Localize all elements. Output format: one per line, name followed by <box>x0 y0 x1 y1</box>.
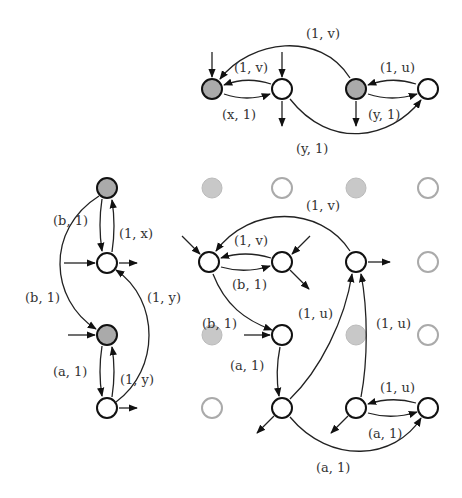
edge-label: (y, 1) <box>368 107 400 122</box>
edge-l4-l3 <box>112 347 114 397</box>
state-node <box>97 398 117 418</box>
edge-e-f <box>277 347 280 396</box>
faded-node <box>272 178 292 198</box>
edge-label: (a, 1) <box>230 358 264 373</box>
edge-t2-t1 <box>224 80 271 85</box>
edge-t1-t2 <box>224 94 270 98</box>
faded-node <box>418 178 438 198</box>
edge-label: (a, 1) <box>316 460 350 475</box>
state-node <box>199 252 219 272</box>
state-node <box>272 325 292 345</box>
edge-label: (b, 1) <box>53 213 88 228</box>
initial-arrow <box>182 236 200 254</box>
edge-l3-l4 <box>100 346 102 396</box>
edge-label: (1, u) <box>376 316 411 331</box>
edge-h-g <box>368 400 416 404</box>
edge-label: (1, u) <box>380 60 415 75</box>
faded-node <box>418 325 438 345</box>
edge-t3-t4 <box>368 94 417 98</box>
faded-node <box>418 252 438 272</box>
edge-label: (1, v) <box>234 60 268 75</box>
edge-label: (1, x) <box>119 226 153 241</box>
state-node <box>202 79 222 99</box>
edge-label: (1, v) <box>306 26 340 41</box>
edge-a-b <box>221 266 270 270</box>
state-node <box>272 252 292 272</box>
edge-label: (1, y) <box>120 372 154 387</box>
edge-label: (a, 1) <box>368 426 402 441</box>
edge-label: (a, 1) <box>53 364 87 379</box>
edge-label: (b, 1) <box>232 277 267 292</box>
edge-label: (1, u) <box>380 380 415 395</box>
edge-label: (1, v) <box>306 198 340 213</box>
edge-g-h <box>368 412 417 416</box>
grid-automaton: (1, v) (1, v) (b, 1) (b, 1) (1, u) (1, u… <box>182 178 438 475</box>
edge-t4-t3 <box>368 80 416 85</box>
edge-label: (1, y) <box>147 290 181 305</box>
edge-label: (1, v) <box>234 233 268 248</box>
edge-l2-l1 <box>112 200 114 252</box>
state-node <box>272 79 292 99</box>
edge-b-a <box>221 254 271 258</box>
edge-label: (1, u) <box>298 306 333 321</box>
state-node <box>272 398 292 418</box>
edge-f-c <box>290 274 352 399</box>
faded-node <box>202 398 222 418</box>
state-node <box>97 253 117 273</box>
state-node <box>346 252 366 272</box>
faded-node <box>202 178 222 198</box>
faded-node <box>346 178 366 198</box>
edge-label: (b, 1) <box>202 316 237 331</box>
initial-arrow <box>292 236 310 254</box>
faded-node <box>346 325 366 345</box>
top-automaton: (1, v) (1, v) (x, 1) (1, u) (y, 1) (y, 1… <box>202 26 438 156</box>
edge-label: (y, 1) <box>296 141 328 156</box>
state-node <box>97 325 117 345</box>
final-arrow <box>331 416 348 433</box>
edge-l1-l2 <box>100 199 102 251</box>
left-automaton: (b, 1) (1, x) (b, 1) (1, y) (a, 1) (1, y… <box>25 178 181 418</box>
final-arrow <box>257 416 274 433</box>
final-arrow <box>290 270 309 289</box>
edge-label: (b, 1) <box>25 290 60 305</box>
state-node <box>418 79 438 99</box>
edge-label: (x, 1) <box>222 107 256 122</box>
state-node <box>97 178 117 198</box>
state-node <box>346 398 366 418</box>
diagram-canvas: (1, v) (1, v) (x, 1) (1, u) (y, 1) (y, 1… <box>0 0 462 498</box>
state-node <box>346 79 366 99</box>
state-node <box>418 398 438 418</box>
